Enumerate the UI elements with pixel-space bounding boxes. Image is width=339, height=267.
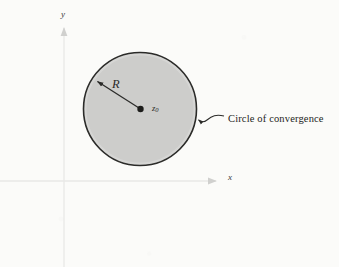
figure-circle-of-convergence: R z0 x y Circle of convergence <box>0 0 339 267</box>
figure-canvas <box>0 0 339 267</box>
center-point-dot <box>137 106 143 112</box>
callout-leader-line <box>199 115 225 121</box>
callout-leader-group <box>199 115 225 121</box>
